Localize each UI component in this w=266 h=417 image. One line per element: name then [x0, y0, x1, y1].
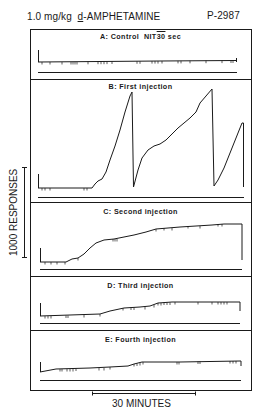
panel-b-title: B: First injection [30, 82, 251, 91]
panel-a-trace [38, 50, 237, 73]
panel-e-trace [40, 361, 241, 381]
panel-a-title: A: Control NIT30 sec [30, 32, 251, 41]
x-axis-label: 30 MINUTES [112, 398, 171, 409]
y-scale-bar [22, 167, 27, 258]
panel-c-title: C: Second injection [30, 207, 251, 216]
panel-d-trace [40, 302, 240, 324]
panel-e-title: E: Fourth injection [30, 335, 251, 344]
panel-b-trace [38, 89, 244, 198]
panel-c-trace [40, 224, 242, 270]
x-scale-bar [92, 392, 196, 396]
panel-d-title: D: Third injection [30, 281, 251, 290]
y-axis-label: 1000 RESPONSES [8, 169, 19, 256]
